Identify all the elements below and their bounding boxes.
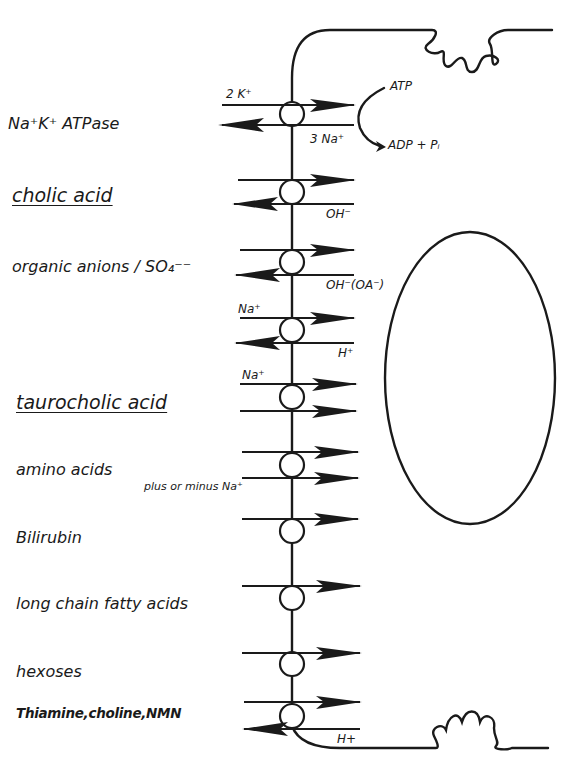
ion-h-exchanger: H⁺ <box>338 347 353 359</box>
transporter-circle <box>280 385 304 409</box>
ion-2k: 2 K⁺ <box>226 88 252 100</box>
ion-na-exchanger: Na⁺ <box>238 303 261 315</box>
label-bilirubin: Bilirubin <box>16 530 82 546</box>
atp-curve <box>358 88 384 146</box>
atp-arrow-icon <box>376 141 386 152</box>
transporter-circle <box>280 250 304 274</box>
ion-oh-oa: OH⁻(OA⁻) <box>326 279 384 291</box>
label-thiamine-choline-nmn: Thiamine,choline,NMN <box>16 707 181 721</box>
label-cholic-acid: cholic acid <box>12 186 113 205</box>
transporter-circle <box>280 586 304 610</box>
membrane-bottom <box>292 712 548 750</box>
cell-oval <box>385 232 555 524</box>
label-amino-acids: amino acids <box>16 462 112 478</box>
transport-diagram: Na⁺K⁺ ATPase cholic acid organic anions … <box>0 0 561 762</box>
atp-label: ATP <box>390 80 412 92</box>
transporter-circle <box>280 318 304 342</box>
membrane-top <box>292 30 552 110</box>
adp-pi-label: ADP + Pᵢ <box>388 139 440 151</box>
ion-plus-minus-na: plus or minus Na⁺ <box>144 481 243 492</box>
label-hexoses: hexoses <box>16 664 82 680</box>
label-taurocholic-acid: taurocholic acid <box>16 393 167 412</box>
transporter-circle <box>280 180 304 204</box>
label-na-k-atpase: Na⁺K⁺ ATPase <box>8 116 119 132</box>
ion-oh-cholic: OH⁻ <box>326 208 351 220</box>
transporter-circle <box>280 453 304 477</box>
transporter-circle <box>280 652 304 676</box>
ion-na-tauro: Na⁺ <box>242 369 265 381</box>
transporter-circle <box>280 519 304 543</box>
label-organic-anions: organic anions / SO₄⁻⁻ <box>12 259 191 275</box>
ion-h-bottom: H+ <box>337 733 356 745</box>
ion-3na: 3 Na⁺ <box>310 133 344 145</box>
label-long-chain-fatty-acids: long chain fatty acids <box>16 596 188 612</box>
